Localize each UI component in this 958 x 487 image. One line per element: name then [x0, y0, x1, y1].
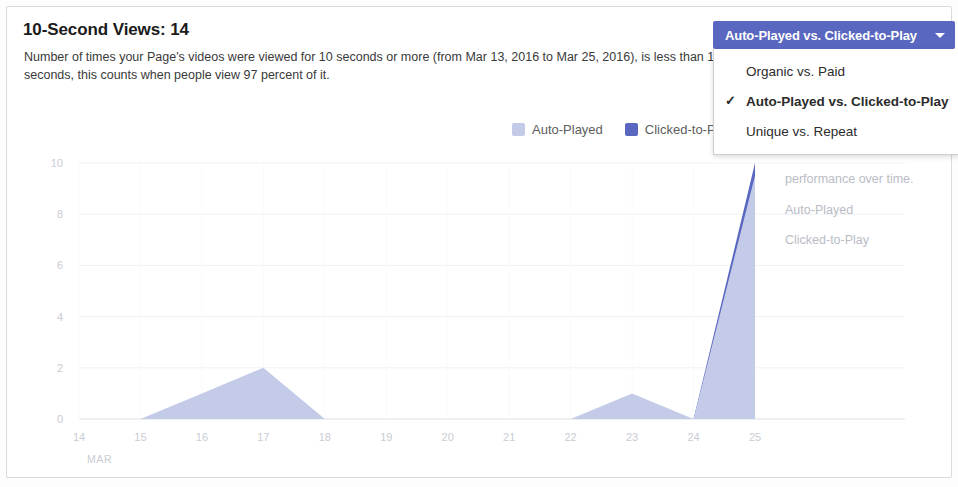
dropdown-option-label: Unique vs. Repeat — [746, 124, 857, 139]
area-chart: 0246810141516171819202122232425MAR — [7, 147, 951, 477]
x-axis-tick-label: 18 — [319, 431, 331, 443]
x-axis-tick-label: 23 — [626, 431, 638, 443]
x-axis-month-label: MAR — [87, 453, 112, 465]
dropdown-option-unique-vs-repeat[interactable]: Unique vs. Repeat — [714, 116, 958, 146]
dropdown-option-auto-played-vs-clicked-to-play[interactable]: ✓ Auto-Played vs. Clicked-to-Play — [714, 86, 958, 116]
x-axis-tick-label: 15 — [134, 431, 146, 443]
y-axis-tick-label: 4 — [57, 311, 63, 323]
legend-swatch-icon — [625, 123, 638, 136]
metric-breakdown-dropdown-menu: Organic vs. Paid ✓ Auto-Played vs. Click… — [713, 49, 958, 155]
y-axis-tick-label: 0 — [57, 413, 63, 425]
legend-swatch-icon — [512, 123, 525, 136]
series-area-auto-played — [79, 176, 755, 419]
x-axis-tick-label: 24 — [687, 431, 699, 443]
check-icon: ✓ — [725, 95, 737, 107]
x-axis-tick-label: 16 — [196, 431, 208, 443]
y-axis-tick-label: 8 — [57, 208, 63, 220]
x-axis-tick-label: 21 — [503, 431, 515, 443]
x-axis-tick-label: 22 — [565, 431, 577, 443]
x-axis-tick-label: 20 — [442, 431, 454, 443]
metric-description: Number of times your Page's videos were … — [24, 48, 740, 84]
x-axis-tick-label: 17 — [257, 431, 269, 443]
legend-item-auto-played: Auto-Played — [512, 122, 603, 137]
page-title: 10-Second Views: 14 — [23, 20, 189, 40]
x-axis-tick-label: 19 — [380, 431, 392, 443]
legend-label: Auto-Played — [532, 122, 603, 137]
metric-breakdown-dropdown-button[interactable]: Auto-Played vs. Clicked-to-Play — [713, 21, 955, 49]
dropdown-button-label: Auto-Played vs. Clicked-to-Play — [725, 28, 917, 43]
y-axis-tick-label: 10 — [51, 157, 63, 169]
dropdown-option-organic-vs-paid[interactable]: Organic vs. Paid — [714, 56, 958, 86]
screenshot-root: 10-Second Views: 14 Number of times your… — [0, 0, 958, 487]
x-axis-tick-label: 25 — [749, 431, 761, 443]
dropdown-option-label: Organic vs. Paid — [746, 64, 845, 79]
dropdown-option-label: Auto-Played vs. Clicked-to-Play — [746, 94, 949, 109]
x-axis-tick-label: 14 — [73, 431, 85, 443]
chart-legend: Auto-Played Clicked-to-Play — [512, 122, 732, 137]
insights-card: 10-Second Views: 14 Number of times your… — [6, 6, 952, 478]
chevron-down-icon — [935, 33, 945, 38]
chart-canvas: 0246810141516171819202122232425MAR — [7, 147, 951, 477]
series-area-clicked-to-play — [79, 163, 755, 419]
y-axis-tick-label: 2 — [57, 362, 63, 374]
y-axis-tick-label: 6 — [57, 259, 63, 271]
